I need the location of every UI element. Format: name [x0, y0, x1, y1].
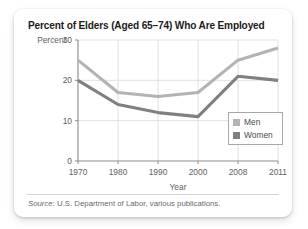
- chart-card: Percent of Elders (Aged 65–74) Who Are E…: [14, 9, 292, 217]
- xtick-label-1970: 1970: [69, 167, 88, 177]
- series-line-men: [78, 48, 278, 96]
- source-text: U.S. Department of Labor, various public…: [55, 199, 221, 208]
- legend-label-men: Men: [244, 118, 260, 127]
- legend-item-women: Women: [233, 129, 282, 142]
- legend-swatch-women: [233, 132, 240, 139]
- xtick-label-2011: 2011: [269, 167, 287, 177]
- ytick-label-20: 20: [63, 75, 73, 85]
- legend-label-women: Women: [244, 131, 273, 140]
- xtick-label-1980: 1980: [109, 167, 128, 177]
- ytick-label-10: 10: [63, 116, 73, 126]
- source-note: Source: U.S. Department of Labor, variou…: [28, 199, 280, 208]
- x-axis-label: Year: [170, 182, 187, 192]
- xtick-label-2000: 2000: [189, 167, 208, 177]
- legend-item-men: Men: [233, 116, 282, 129]
- source-prefix: Source:: [28, 199, 55, 208]
- xtick-label-2008: 2008: [229, 167, 248, 177]
- y-axis-label: Percent: [37, 35, 67, 45]
- legend-swatch-men: [233, 119, 240, 126]
- source-divider: [27, 194, 279, 195]
- chart-legend: Men Women: [228, 112, 283, 145]
- series-line-women: [78, 76, 278, 116]
- xtick-label-1990: 1990: [149, 167, 168, 177]
- ytick-label-0: 0: [67, 156, 72, 166]
